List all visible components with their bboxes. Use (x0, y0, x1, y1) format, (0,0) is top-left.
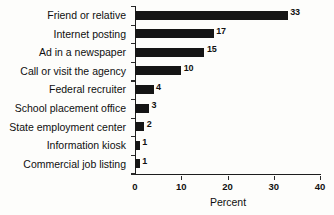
bar-value-label: 1 (142, 156, 147, 166)
x-axis-tick (274, 176, 275, 180)
bar-value-label: 2 (147, 119, 152, 129)
y-axis-tick (131, 25, 136, 26)
x-axis-tick-label: 20 (222, 181, 233, 192)
category-label: Information kiosk (47, 140, 126, 151)
x-axis-tick-label: 10 (176, 181, 187, 192)
category-label: Friend or relative (47, 10, 126, 21)
category-label: Call or visit the agency (20, 66, 126, 77)
category-label: Ad in a newspaper (39, 47, 126, 58)
bar (135, 159, 140, 168)
x-axis-tick (320, 176, 321, 180)
bar-row: 4 (135, 80, 320, 99)
bar-value-label: 15 (207, 44, 217, 54)
x-axis-tick-label: 40 (315, 181, 326, 192)
bar-value-label: 33 (290, 7, 300, 17)
category-label: School placement office (15, 103, 126, 114)
y-axis-tick (131, 99, 136, 100)
bar-row: 10 (135, 62, 320, 81)
bar-value-label: 3 (151, 100, 156, 110)
bar (135, 85, 154, 94)
bar-row: 3 (135, 99, 320, 118)
category-label: State employment center (9, 122, 126, 133)
bar (135, 141, 140, 150)
bar (135, 48, 204, 57)
category-label: Federal recruiter (49, 84, 126, 95)
bar-row: 1 (135, 155, 320, 174)
y-axis-tick (131, 80, 136, 81)
bar-row: 1 (135, 136, 320, 155)
bar-row: 33 (135, 6, 320, 25)
x-axis-tick (181, 176, 182, 180)
bar (135, 122, 144, 131)
bar (135, 29, 214, 38)
bar-chart: Friend or relativeInternet postingAd in … (0, 0, 334, 215)
category-label: Commercial job listing (23, 159, 126, 170)
y-axis-tick (131, 43, 136, 44)
bar-value-label: 4 (156, 82, 161, 92)
y-axis-tick (131, 155, 136, 156)
y-axis-tick (131, 136, 136, 137)
x-axis-tick-label: 30 (268, 181, 279, 192)
x-axis-tick-label: 0 (132, 181, 137, 192)
y-axis-tick (131, 6, 136, 7)
bar-value-label: 1 (142, 137, 147, 147)
x-axis-tick (228, 176, 229, 180)
x-axis-title: Percent (135, 196, 321, 208)
category-axis-labels: Friend or relativeInternet postingAd in … (0, 6, 131, 174)
bar-value-label: 10 (184, 63, 194, 73)
y-axis-tick (131, 173, 136, 174)
bar (135, 104, 149, 113)
bar-row: 17 (135, 25, 320, 44)
bar-value-label: 17 (216, 26, 226, 36)
plot-area: 3317151043211 (135, 6, 320, 174)
bar (135, 66, 181, 75)
bar-row: 2 (135, 118, 320, 137)
bar (135, 11, 288, 20)
bar-row: 15 (135, 43, 320, 62)
y-axis-tick (131, 118, 136, 119)
y-axis-tick (131, 62, 136, 63)
category-label: Internet posting (54, 29, 126, 40)
